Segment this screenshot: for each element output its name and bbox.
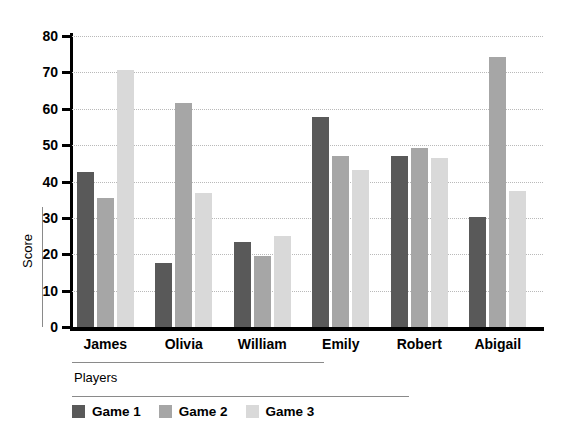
x-axis-label-olivia: Olivia [141, 336, 226, 352]
y-tick-label: 10 [28, 283, 58, 299]
x-axis-label-james: James [63, 336, 148, 352]
bar-chart: Score 01020304050607080 JamesOliviaWilli… [0, 0, 579, 442]
y-tick-mark [62, 108, 70, 111]
y-tick-mark [62, 217, 70, 220]
bar [352, 170, 369, 328]
y-tick-label: 40 [28, 174, 58, 190]
y-tick-label: 80 [28, 28, 58, 44]
bar [97, 198, 114, 327]
bar [489, 57, 506, 327]
gridline [72, 109, 543, 110]
y-tick-mark [62, 253, 70, 256]
legend-label: Game 1 [92, 404, 141, 419]
y-tick-label: 60 [28, 101, 58, 117]
legend-rule [72, 396, 409, 397]
legend-swatch-icon [246, 405, 259, 418]
y-tick-label: 30 [28, 210, 58, 226]
legend: Game 1Game 2Game 3 [72, 404, 314, 419]
y-tick-mark [62, 144, 70, 147]
x-axis-title-rule [72, 362, 324, 363]
y-tick-label: 0 [28, 319, 58, 335]
bar [274, 236, 291, 327]
x-axis-line [70, 327, 544, 331]
gridline [72, 72, 543, 73]
legend-item[interactable]: Game 2 [159, 404, 228, 419]
legend-swatch-icon [72, 405, 85, 418]
legend-item[interactable]: Game 3 [246, 404, 315, 419]
y-tick-mark [62, 71, 70, 74]
gridline [72, 182, 543, 183]
y-tick-mark [62, 181, 70, 184]
y-tick-label: 70 [28, 64, 58, 80]
legend-label: Game 3 [266, 404, 315, 419]
plot-area [72, 36, 543, 327]
y-tick-label: 50 [28, 137, 58, 153]
bar [312, 117, 329, 327]
bar [469, 217, 486, 327]
legend-item[interactable]: Game 1 [72, 404, 141, 419]
bar [431, 158, 448, 327]
y-tick-mark [62, 290, 70, 293]
x-axis-label-william: William [220, 336, 305, 352]
bar [234, 242, 251, 327]
y-tick-mark [62, 35, 70, 38]
x-axis-label-robert: Robert [377, 336, 462, 352]
legend-swatch-icon [159, 405, 172, 418]
x-axis-label-abigail: Abigail [455, 336, 540, 352]
y-tick-label: 20 [28, 246, 58, 262]
bar [332, 156, 349, 327]
bar [411, 148, 428, 327]
x-axis-title: Players [74, 370, 117, 385]
gridline [72, 36, 543, 37]
x-axis-label-emily: Emily [298, 336, 383, 352]
bar [391, 156, 408, 327]
bar [195, 193, 212, 327]
bar [117, 70, 134, 327]
bar [155, 263, 172, 327]
gridline [72, 145, 543, 146]
bar [77, 172, 94, 327]
y-tick-mark [62, 326, 70, 329]
bar [254, 256, 271, 327]
bar [175, 103, 192, 327]
legend-label: Game 2 [179, 404, 228, 419]
bar [509, 191, 526, 327]
